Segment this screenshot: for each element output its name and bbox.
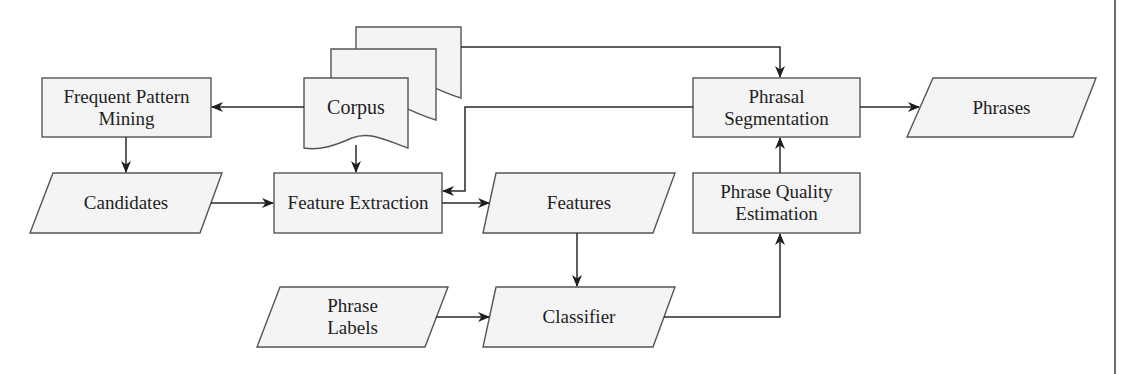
pqe-line1: Phrase Quality (720, 181, 832, 203)
fpm-line1: Frequent Pattern (63, 86, 189, 108)
phrase-labels-label: Phrase Labels (257, 287, 448, 347)
phrases-label: Phrases (907, 78, 1096, 137)
flowchart: Frequent Pattern Mining Corpus Candidate… (0, 0, 1124, 374)
ps-line1: Phrasal (749, 86, 805, 108)
fpm-line2: Mining (99, 108, 155, 130)
features-label: Features (483, 173, 675, 233)
frequent-pattern-mining-label: Frequent Pattern Mining (42, 78, 211, 137)
feature-extraction-label: Feature Extraction (274, 173, 442, 233)
phrasal-segmentation-label: Phrasal Segmentation (693, 78, 860, 137)
classifier-label: Classifier (483, 287, 675, 347)
edge-corpus-to-phrasal-segmentation (461, 47, 780, 77)
phrase-labels-line1: Phrase (327, 295, 378, 317)
phrase-labels-line2: Labels (327, 317, 378, 339)
right-border-line (1114, 0, 1116, 374)
phrase-quality-estimation-label: Phrase Quality Estimation (693, 173, 860, 233)
pqe-line2: Estimation (735, 203, 817, 225)
corpus-label: Corpus (304, 88, 408, 126)
candidates-label: Candidates (30, 173, 222, 233)
ps-line2: Segmentation (724, 108, 828, 130)
edge-classifier-to-pqe (664, 234, 780, 317)
